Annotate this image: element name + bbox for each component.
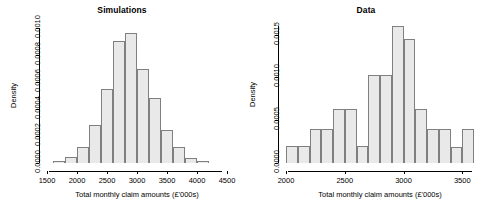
page-title-data: Data [244,5,488,15]
y-axis-tick-label: 0.0010 [272,61,281,91]
y-axis-tick-label: 0.0010 [33,12,42,42]
histogram-bar [427,129,439,163]
y-axis-label-simulations: Density [9,55,18,135]
plot-area-simulations [47,28,227,163]
histogram-bar [333,109,345,163]
histogram-bar [392,26,404,163]
x-axis-tick [345,171,346,174]
plot-area-data [286,26,474,163]
x-axis-tick-label: 4500 [219,176,236,185]
histogram-bar [185,158,197,163]
x-axis-label-simulations: Total monthly claim amounts (£'000s) [75,190,199,199]
histogram-bar [101,89,113,163]
histogram-bar [77,147,89,163]
histogram-bar [149,98,161,163]
histogram-bar [197,161,209,163]
figure-canvas: Simulations 1500200025003000350040004500… [0,0,488,201]
histogram-bar [89,125,101,163]
histogram-bar [173,147,185,163]
x-axis-line [288,171,472,172]
y-axis-label-data: Density [248,54,257,134]
chart-panel-data: Data 2000250030003500 0.00000.00050.0010… [244,0,488,201]
y-axis-tick-label: 0.0015 [272,18,281,48]
x-axis-tick-label: 3000 [395,176,412,185]
x-axis-tick [462,171,463,174]
x-axis-tick-label: 1500 [39,176,56,185]
x-axis-tick-label: 2000 [278,176,295,185]
histogram-bar [345,109,357,163]
histogram-bar [357,146,369,163]
histogram-bar [286,146,298,163]
x-axis-tick-label: 3500 [159,176,176,185]
histogram-bars-data [286,26,474,163]
histogram-bar [113,41,125,163]
y-axis-tick-label: 0.0004 [33,93,42,123]
x-axis-tick [47,171,48,174]
x-axis-tick [197,171,198,174]
histogram-bar [298,146,310,163]
x-axis-tick [286,171,287,174]
histogram-bars-simulations [47,28,227,163]
x-axis-tick [77,171,78,174]
x-axis-tick [227,171,228,174]
x-axis-tick-label: 3000 [129,176,146,185]
histogram-bar [125,33,137,163]
y-axis-tick-label: 0.0000 [33,147,42,177]
x-axis-tick [107,171,108,174]
histogram-bar [439,129,451,163]
histogram-bar [161,130,173,163]
x-axis-tick [404,171,405,174]
histogram-bar [404,39,416,163]
y-axis-tick-label: 0.0005 [272,104,281,134]
histogram-bar [462,129,474,163]
histogram-bar [65,157,77,163]
x-axis-label-data: Total monthly claim amounts (£'000s) [318,190,442,199]
x-axis-tick-label: 2500 [336,176,353,185]
x-axis-tick-label: 3500 [454,176,471,185]
histogram-bar [321,129,333,163]
x-axis-tick-label: 2000 [69,176,86,185]
x-axis-tick [167,171,168,174]
x-axis-tick-label: 2500 [99,176,116,185]
x-axis-tick-label: 4000 [189,176,206,185]
y-axis-tick-label: 0.0000 [272,147,281,177]
chart-panel-simulations: Simulations 1500200025003000350040004500… [0,0,244,201]
histogram-bar [380,75,392,163]
x-axis-tick [137,171,138,174]
histogram-bar [310,129,322,163]
histogram-bar [137,69,149,163]
histogram-bar [368,75,380,163]
histogram-bar [53,161,65,163]
histogram-bar [451,147,463,163]
y-axis-tick-label: 0.0002 [33,120,42,150]
y-axis-tick-label: 0.0006 [33,66,42,96]
y-axis-tick-label: 0.0008 [33,39,42,69]
histogram-bar [415,109,427,163]
